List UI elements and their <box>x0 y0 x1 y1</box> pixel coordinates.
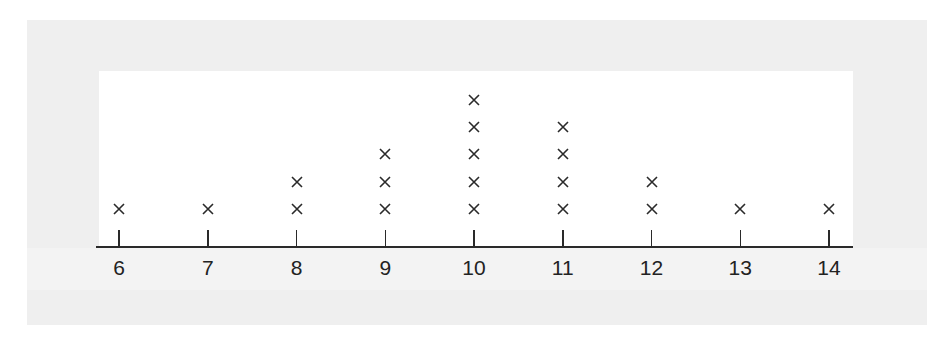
tick-mark <box>651 230 653 247</box>
tick-label: 12 <box>632 256 672 280</box>
x-mark-icon <box>467 202 481 216</box>
x-mark-icon <box>822 202 836 216</box>
x-mark-icon <box>556 202 570 216</box>
x-mark-icon <box>290 175 304 189</box>
x-mark-icon <box>645 202 659 216</box>
x-mark-icon <box>201 202 215 216</box>
x-mark-icon <box>467 175 481 189</box>
tick-mark <box>118 230 120 247</box>
tick-mark <box>296 230 298 247</box>
tick-label: 10 <box>454 256 494 280</box>
x-mark-icon <box>378 175 392 189</box>
tick-label: 9 <box>365 256 405 280</box>
x-mark-icon <box>112 202 126 216</box>
tick-label: 14 <box>809 256 849 280</box>
tick-mark <box>562 230 564 247</box>
x-mark-icon <box>645 175 659 189</box>
tick-label: 6 <box>99 256 139 280</box>
tick-label: 11 <box>543 256 583 280</box>
tick-mark <box>828 230 830 247</box>
x-mark-icon <box>467 93 481 107</box>
tick-label: 8 <box>277 256 317 280</box>
tick-mark <box>385 230 387 247</box>
x-mark-icon <box>290 202 304 216</box>
x-mark-icon <box>556 147 570 161</box>
x-mark-icon <box>733 202 747 216</box>
x-mark-icon <box>467 147 481 161</box>
x-mark-icon <box>556 120 570 134</box>
tick-mark <box>740 230 742 247</box>
x-mark-icon <box>467 120 481 134</box>
tick-label: 13 <box>720 256 760 280</box>
x-mark-icon <box>378 202 392 216</box>
tick-mark <box>473 230 475 247</box>
tick-mark <box>207 230 209 247</box>
x-mark-icon <box>556 175 570 189</box>
tick-label: 7 <box>188 256 228 280</box>
x-mark-icon <box>378 147 392 161</box>
